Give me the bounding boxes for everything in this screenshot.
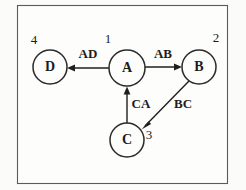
edge-ad-label: AD <box>79 46 98 61</box>
node-a-label: A <box>122 60 133 75</box>
node-c-index: 3 <box>146 127 153 142</box>
graph-canvas: AD AB BC CA D 4 A <box>0 0 246 190</box>
node-d-index: 4 <box>31 32 38 47</box>
node-b-index: 2 <box>213 30 220 45</box>
node-b-label: B <box>194 59 203 74</box>
graph-figure: AD AB BC CA D 4 A <box>0 0 246 190</box>
node-a-index: 1 <box>105 31 112 46</box>
edge-ab-label: AB <box>154 46 172 61</box>
edge-bc-label: BC <box>174 96 192 111</box>
edge-ca-label: CA <box>132 96 151 111</box>
node-d-label: D <box>45 59 55 74</box>
node-c-label: C <box>122 132 132 147</box>
